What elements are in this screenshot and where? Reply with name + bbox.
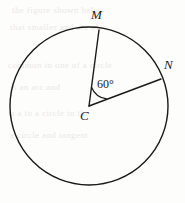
geometry-figure: the figure shown below that smaller and … <box>0 0 185 203</box>
angle-measure-label: 60° <box>97 78 114 90</box>
figure-canvas <box>0 0 185 203</box>
point-label-c: C <box>80 109 89 122</box>
point-label-n: N <box>164 58 173 71</box>
point-label-m: M <box>91 8 102 21</box>
